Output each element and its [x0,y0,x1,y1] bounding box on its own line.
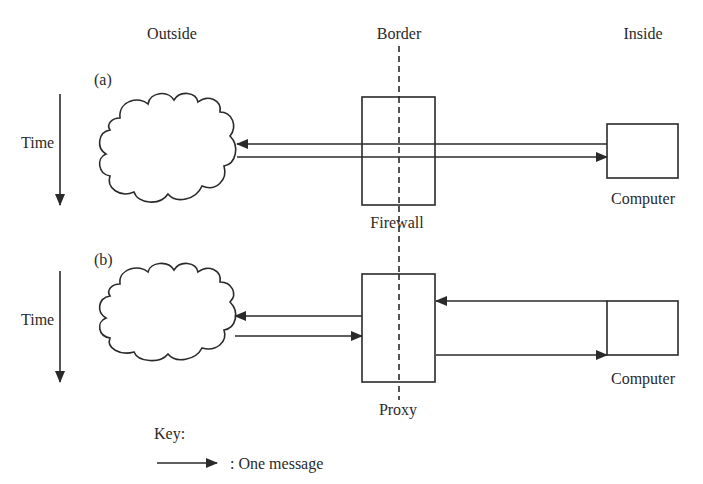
column-heading-border: Border [377,26,421,42]
proxy-label: Proxy [379,402,417,418]
key-title: Key: [154,426,185,442]
internet-cloud-a [100,93,236,202]
panel-b [60,263,678,382]
panel-label-b: (b) [94,252,113,268]
panel-label-a: (a) [94,72,112,88]
computer-label-b: Computer [611,371,675,387]
time-label-b: Time [21,312,54,328]
column-heading-outside: Outside [147,26,197,42]
key-entry-one-message: : One message [230,456,323,472]
firewall-label: Firewall [370,215,423,231]
panel-a [60,93,678,205]
computer-label-a: Computer [611,191,675,207]
internet-cloud-b [100,263,236,360]
computer-box-a [607,124,678,178]
computer-box-b [607,301,678,355]
column-heading-inside: Inside [623,26,662,42]
time-label-a: Time [21,135,54,151]
